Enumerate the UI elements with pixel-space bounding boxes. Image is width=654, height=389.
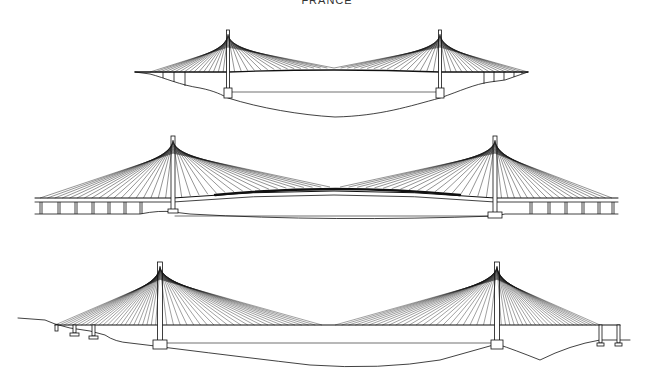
bridge-2-elevation <box>35 136 618 219</box>
bridge-elevation-drawing <box>0 0 654 389</box>
bridge-1-elevation <box>135 30 528 117</box>
bridge-1-piers <box>163 72 522 86</box>
bridge-3-elevation <box>18 262 630 367</box>
